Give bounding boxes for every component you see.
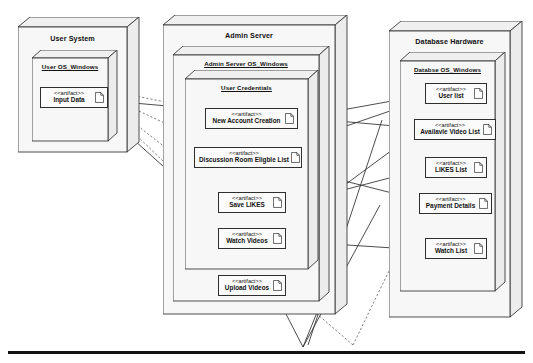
artifact-name: Discussion Room Eligble List — [199, 157, 289, 164]
artifact-name: Upload Videos — [223, 285, 271, 292]
artifact-name: Watch Videos — [223, 238, 271, 245]
document-icon — [483, 124, 492, 135]
artifact-user-list[interactable]: <<artifact>> User list — [425, 83, 487, 104]
artifact-labels: <<artifact>> Watch Videos — [223, 232, 271, 245]
document-icon — [273, 233, 282, 244]
artifact-labels: <<artifact>> Watch List — [430, 242, 472, 255]
artifact-name: New Account Creation — [210, 118, 283, 125]
artifact-labels: <<artifact>> Discussion Room Eligble Lis… — [199, 151, 289, 164]
artifact-input-data[interactable]: <<artifact>> Input Data — [40, 87, 108, 108]
node-title-user-os: User OS_Windows — [32, 63, 108, 70]
node-title-admin-server: Admin Server — [163, 31, 335, 40]
artifact-watch-videos[interactable]: <<artifact>> Watch Videos — [218, 228, 286, 249]
node-title-user-system: User System — [18, 34, 127, 43]
artifact-labels: <<artifact>> Save LIKES — [223, 196, 271, 209]
deployment-diagram-canvas: User System User OS_Windows <<artifact>>… — [0, 0, 533, 363]
document-icon — [291, 152, 300, 163]
artifact-labels: <<artifact>> LIKES List — [430, 161, 472, 174]
document-icon — [474, 88, 483, 99]
bottom-rule — [8, 351, 525, 354]
node-admin-server[interactable]: Admin Server Admin Server OS_Windows Use… — [163, 15, 348, 315]
artifact-discussion-room-eligble-list[interactable]: <<artifact>> Discussion Room Eligble Lis… — [194, 147, 302, 168]
artifact-watch-list[interactable]: <<artifact>> Watch List — [425, 238, 487, 259]
artifact-name: User list — [430, 93, 472, 100]
artifact-name: Input Data — [45, 97, 93, 104]
artifact-upload-videos[interactable]: <<artifact>> Upload Videos — [218, 275, 286, 296]
document-icon — [273, 197, 282, 208]
node-title-user-credentials: User Credentials — [185, 84, 308, 91]
artifact-labels: <<artifact>> User list — [430, 87, 472, 100]
artifact-new-account-creation[interactable]: <<artifact>> New Account Creation — [205, 108, 298, 129]
document-icon — [474, 162, 483, 173]
artifact-labels: <<artifact>> Input Data — [45, 91, 93, 104]
artifact-labels: <<artifact>> New Account Creation — [210, 112, 283, 125]
artifact-payment-details[interactable]: <<artifact>> Payment Details — [419, 193, 492, 214]
artifact-labels: <<artifact>> Availavle Video List — [419, 123, 481, 136]
node-title-database-os: Databse OS_Windows — [400, 66, 495, 73]
artifact-name: LIKES List — [430, 167, 472, 174]
artifact-name: Watch List — [430, 248, 472, 255]
document-icon — [479, 198, 488, 209]
document-icon — [285, 113, 294, 124]
document-icon — [474, 243, 483, 254]
node-database-hardware[interactable]: Database Hardware Databse OS_Windows <<a… — [389, 21, 523, 318]
node-title-admin-os: Admin Server OS_Windows — [173, 60, 319, 67]
node-title-database-hardware: Database Hardware — [389, 37, 510, 46]
document-icon — [95, 92, 104, 103]
artifact-labels: <<artifact>> Payment Details — [424, 197, 477, 210]
artifact-labels: <<artifact>> Upload Videos — [223, 279, 271, 292]
artifact-save-likes[interactable]: <<artifact>> Save LIKES — [218, 192, 286, 213]
artifact-likes-list[interactable]: <<artifact>> LIKES List — [425, 157, 487, 178]
node-user-system[interactable]: User System User OS_Windows <<artifact>>… — [18, 17, 140, 153]
document-icon — [273, 280, 282, 291]
artifact-name: Availavle Video List — [419, 129, 481, 136]
artifact-name: Payment Details — [424, 203, 477, 210]
artifact-availavle-video-list[interactable]: <<artifact>> Availavle Video List — [414, 119, 496, 140]
artifact-name: Save LIKES — [223, 202, 271, 209]
